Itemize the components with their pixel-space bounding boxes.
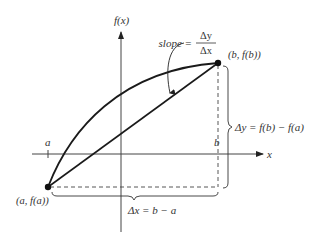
point-b: [215, 60, 221, 66]
point-a: [45, 184, 51, 190]
slope-denominator: Δx: [200, 45, 213, 56]
x-axis-label: x: [266, 148, 272, 160]
delta-x-label: Δx = b − a: [127, 204, 177, 216]
point-b-label: (b, f(b)): [228, 49, 261, 61]
delta-y-brace: [223, 66, 232, 188]
delta-x-brace: [52, 192, 218, 200]
secant-line: [48, 63, 218, 187]
tick-label-a: a: [45, 136, 51, 148]
slope-numerator: Δy: [200, 30, 213, 41]
point-a-label: (a, f(a)): [16, 195, 49, 207]
delta-y-label: Δy = f(b) − f(a): [234, 121, 304, 134]
secant-slope-diagram: f(x) x a b (a, f(a)) (b, f(b)) slope = Δ…: [0, 0, 316, 234]
y-axis-label: f(x): [114, 14, 130, 27]
tick-label-b: b: [214, 136, 220, 148]
